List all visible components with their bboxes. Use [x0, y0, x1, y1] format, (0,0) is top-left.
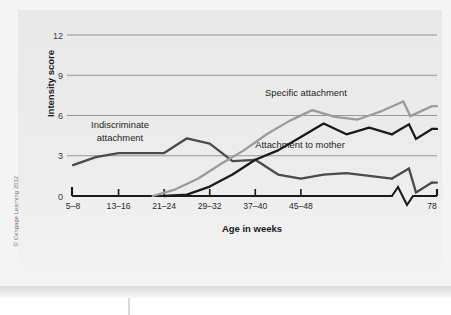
series-path-main	[164, 124, 392, 196]
series-annotations: IndiscriminateattachmentAttachment to mo…	[91, 87, 347, 150]
x-tick-label: 78	[427, 201, 437, 211]
x-tick-labels: 5–813–1621–2429–3237–4045–4878	[66, 201, 437, 211]
x-axis-title: Age in weeks	[222, 223, 282, 234]
y-tick-label: 9	[58, 71, 63, 81]
series-annotation-label: Indiscriminate	[91, 119, 149, 130]
series-path-main	[153, 110, 381, 196]
series-line	[164, 124, 437, 196]
figure-root: © Cengage Learning 2012 Intensity score …	[0, 0, 451, 315]
y-tick-label: 3	[58, 151, 63, 161]
x-tick-label: 37–40	[243, 201, 267, 211]
x-tick-label: 21–24	[152, 201, 176, 211]
y-tick-label: 6	[58, 111, 63, 121]
series-annotation-label: Specific attachment	[265, 87, 347, 98]
series-annotation-label: Attachment to mother	[255, 139, 345, 150]
line-chart: 036912 5–813–1621–2429–3237–4045–4878 In…	[0, 0, 451, 315]
y-tick-label: 0	[58, 192, 63, 202]
x-tick-label: 13–16	[107, 201, 131, 211]
x-tick-label: 5–8	[66, 201, 81, 211]
series-path-break	[381, 101, 432, 116]
series-annotation-label: attachment	[97, 132, 144, 143]
y-tick-labels: 036912	[53, 31, 63, 202]
series-path-break	[392, 124, 432, 139]
x-tick-label: 45–48	[289, 201, 313, 211]
x-tick-label: 29–32	[198, 201, 222, 211]
y-tick-label: 12	[53, 31, 63, 41]
